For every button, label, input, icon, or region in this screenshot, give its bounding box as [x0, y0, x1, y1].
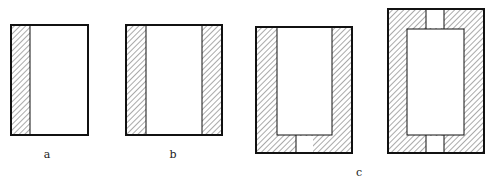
- diagram-canvas: [0, 0, 489, 181]
- label-c: c: [356, 166, 362, 179]
- panel-a: [11, 25, 88, 135]
- hatched-strip-left: [11, 25, 30, 135]
- panel-c1: [256, 27, 352, 153]
- bottom-gap: [426, 136, 444, 152]
- top-gap: [426, 10, 444, 28]
- label-a: a: [44, 148, 51, 161]
- bottom-gap: [296, 136, 313, 152]
- panel-c2: [388, 9, 484, 153]
- inner-window: [407, 29, 464, 135]
- hatched-strip-left: [126, 25, 146, 135]
- hatched-strip-right: [202, 25, 222, 135]
- inner-window: [277, 27, 332, 135]
- label-b: b: [169, 148, 176, 161]
- panel-b: [126, 25, 222, 135]
